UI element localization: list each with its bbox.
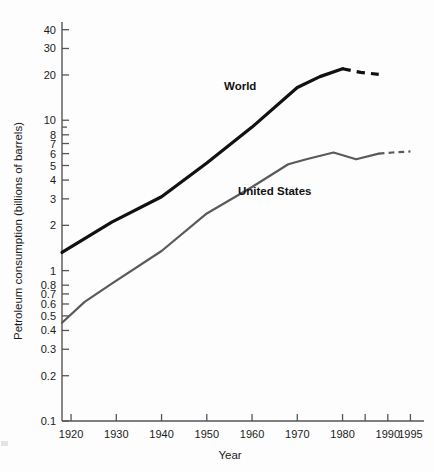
y-tick-label: 30 xyxy=(18,43,56,54)
y-tick-label: 0.3 xyxy=(18,344,56,355)
y-axis-title: Petroleum consumption (billions of barre… xyxy=(12,122,24,340)
series-line-united-states xyxy=(62,153,379,323)
x-axis-title: Year xyxy=(218,449,241,461)
x-tick-label: 1980 xyxy=(330,429,354,440)
y-tick-label: 0.1 xyxy=(18,416,56,427)
x-tick-label: 1960 xyxy=(240,429,264,440)
x-tick-label: 1990 xyxy=(376,429,400,440)
series-label-united-states: United States xyxy=(238,185,312,197)
x-tick-label: 1940 xyxy=(149,429,173,440)
y-tick-label: 0.2 xyxy=(18,370,56,381)
series-line-dashed-united-states xyxy=(379,151,411,153)
x-tick-label: 1970 xyxy=(285,429,309,440)
y-tick-label: 20 xyxy=(18,69,56,80)
line-chart-plot xyxy=(0,0,434,472)
x-tick-label: 1995 xyxy=(398,429,422,440)
x-tick-label: 1950 xyxy=(195,429,219,440)
x-tick-label: 1930 xyxy=(104,429,128,440)
chart-figure: 40302010876543210.80.70.60.50.40.30.20.1… xyxy=(0,0,434,472)
series-label-world: World xyxy=(224,80,256,92)
x-tick-label: 1920 xyxy=(59,429,83,440)
series-line-dashed-world xyxy=(343,69,379,75)
y-tick-label: 40 xyxy=(18,24,56,35)
